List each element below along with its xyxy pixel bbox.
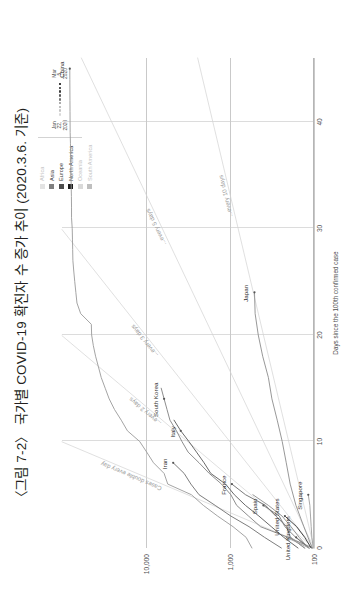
series-endpoint-marker <box>69 68 71 70</box>
date-ramp-dot-icon <box>59 106 62 109</box>
x-tick-label: 40 <box>316 118 323 125</box>
series-label-singapore: Singapore <box>296 482 303 510</box>
series-label-france: France <box>219 475 226 494</box>
series-endpoint-marker <box>180 430 182 432</box>
date-ramp-dot-icon <box>59 113 62 116</box>
date-legend-ramp <box>59 83 62 116</box>
series-label-spain: Spain <box>251 498 258 514</box>
plot-area: 0102030401001,00010,000 ChinaSouth Korea… <box>62 58 314 548</box>
date-ramp-dot-icon <box>59 98 62 101</box>
series-endpoint-marker <box>307 494 309 496</box>
date-ramp-dot-icon <box>59 83 62 86</box>
chart-lines <box>62 58 314 548</box>
x-tick-label: 10 <box>316 438 323 445</box>
series-label-united-kingdom: United Kingdom <box>284 516 291 560</box>
series-label-italy: Italy <box>168 426 175 437</box>
date-ramp-dot-icon <box>59 87 62 90</box>
series-endpoint-marker <box>295 536 297 538</box>
x-tick-label: 30 <box>316 225 323 232</box>
y-tick-label: 100 <box>311 554 318 565</box>
gridline-horizontal <box>314 58 315 548</box>
date-ramp-dot-icon <box>59 102 62 105</box>
legend-item-africa[interactable]: Africa <box>38 145 47 189</box>
legend-item-label: Africa <box>38 167 46 181</box>
series-endpoint-marker <box>231 483 233 485</box>
x-axis-label: Days since the 100th confirmed case <box>332 58 339 548</box>
x-tick-label: 20 <box>316 331 323 338</box>
date-ramp-dot-icon <box>59 109 62 112</box>
series-endpoint-marker <box>163 398 165 400</box>
series-endpoint-marker <box>262 504 264 506</box>
x-axis-line <box>313 58 314 548</box>
series-endpoint-marker <box>253 291 255 293</box>
page-title: 〈그림 7-2〉 국가별 COVID-19 확진자 수 증가 추이 (2020.… <box>10 0 30 612</box>
date-ramp-dot-icon <box>59 90 62 93</box>
series-label-iran: Iran <box>161 458 168 469</box>
date-ramp-dot-icon <box>59 94 62 97</box>
series-label-united-states: United States <box>272 498 279 535</box>
y-tick-label: 10,000 <box>143 554 150 574</box>
y-tick-label: 1,000 <box>227 554 234 571</box>
series-label-japan: Japan <box>242 285 249 302</box>
series-label-china: China <box>57 62 64 78</box>
x-tick-label: 0 <box>316 546 323 550</box>
legend-item-label: Asia <box>48 170 56 181</box>
legend-item-asia[interactable]: Asia <box>48 145 57 189</box>
series-label-south-korea: South Korea <box>152 383 159 417</box>
legend-swatch-icon <box>40 184 45 189</box>
legend-swatch-icon <box>49 184 54 189</box>
series-endpoint-marker <box>172 462 174 464</box>
figure-container: 〈그림 7-2〉 국가별 COVID-19 확진자 수 증가 추이 (2020.… <box>0 0 350 612</box>
series-line-france <box>232 484 305 548</box>
